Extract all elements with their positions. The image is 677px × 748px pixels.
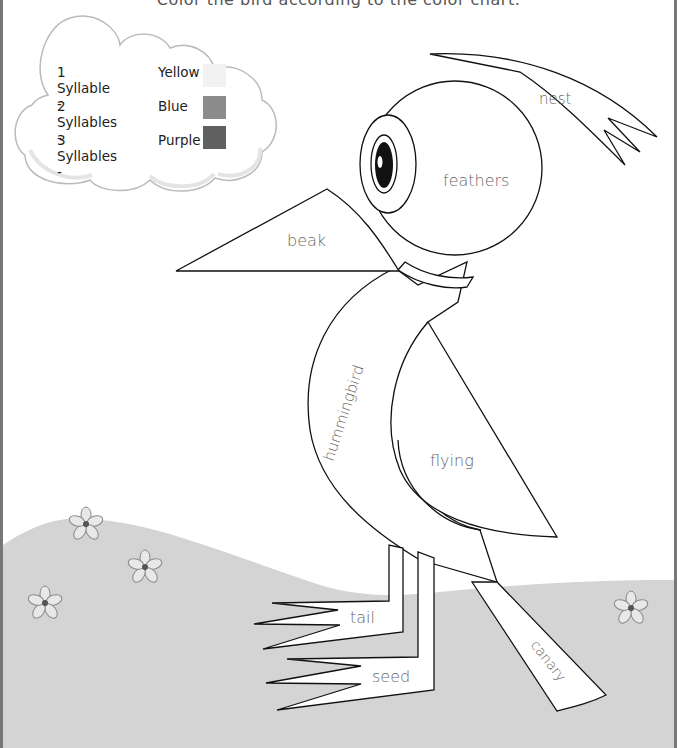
label-feathers: feathers	[443, 171, 509, 190]
eye	[360, 115, 416, 213]
legend-swatch-blue	[203, 96, 226, 119]
beak	[176, 189, 399, 271]
legend-color-3: Purple	[158, 132, 201, 148]
cloud-legend-shape	[15, 16, 276, 191]
label-seed: seed	[372, 667, 410, 686]
label-beak: beak	[287, 231, 326, 250]
legend-syllables-3: 3 Syllables -	[57, 132, 117, 180]
legend-swatch-purple	[203, 126, 226, 149]
label-flying: flying	[430, 451, 474, 470]
worksheet-page: Color the bird according to the color ch…	[0, 0, 677, 748]
legend-color-2: Blue	[158, 98, 188, 114]
legend-swatch-yellow	[203, 64, 226, 87]
label-tail: tail	[350, 608, 375, 627]
label-nest: nest	[539, 90, 572, 108]
legend-color-1: Yellow	[158, 64, 200, 80]
